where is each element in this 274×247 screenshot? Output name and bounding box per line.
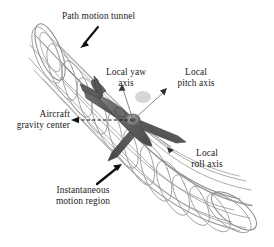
label-path-motion-tunnel-line1: Path motion tunnel bbox=[62, 11, 135, 22]
label-aircraft-gravity-center-line1: Aircraft bbox=[8, 109, 70, 120]
label-local-roll-axis: Local roll axis bbox=[183, 148, 231, 169]
label-instantaneous-motion-region-line2: motion region bbox=[32, 196, 134, 207]
label-local-roll-axis-line1: Local bbox=[183, 148, 231, 159]
label-instantaneous-motion-region: Instantaneous motion region bbox=[32, 185, 134, 206]
aircraft-shadow bbox=[135, 91, 151, 103]
label-local-pitch-axis-line2: pitch axis bbox=[168, 78, 224, 89]
label-path-motion-tunnel: Path motion tunnel bbox=[62, 11, 135, 22]
label-local-pitch-axis: Local pitch axis bbox=[168, 67, 224, 88]
label-local-yaw-axis-line1: Local yaw bbox=[100, 67, 152, 78]
label-local-pitch-axis-line1: Local bbox=[168, 67, 224, 78]
label-local-yaw-axis: Local yaw axis bbox=[100, 67, 152, 88]
path-motion-tunnel-figure: Path motion tunnel Local yaw axis Local … bbox=[0, 0, 274, 247]
label-local-yaw-axis-line2: axis bbox=[100, 78, 152, 89]
tunnel-leader-arrow bbox=[80, 27, 98, 48]
label-aircraft-gravity-center-line2: gravity center bbox=[8, 120, 70, 131]
label-local-roll-axis-line2: roll axis bbox=[183, 159, 231, 170]
label-instantaneous-motion-region-line1: Instantaneous bbox=[32, 185, 134, 196]
label-aircraft-gravity-center: Aircraft gravity center bbox=[8, 109, 70, 130]
motion-region-leader-arrow bbox=[97, 164, 122, 184]
